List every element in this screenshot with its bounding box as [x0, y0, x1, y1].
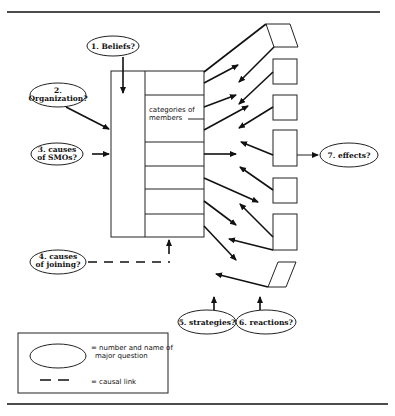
- smo-diagram: categories of members 1. Beliefs? 2. Org…: [0, 0, 395, 416]
- effect-box-1: [273, 59, 297, 84]
- organization-box: [111, 71, 204, 237]
- reaction-arrows: [216, 47, 274, 287]
- effect-box-4: [273, 178, 297, 203]
- question-3-label-2: of SMOs?: [37, 153, 77, 162]
- question-4-ellipse: 4. causes of joining?: [30, 250, 86, 274]
- question-6-ellipse: 6. reactions?: [236, 310, 296, 334]
- question-4-label-2: of joining?: [36, 260, 81, 269]
- legend-dash-label: = causal link: [91, 378, 137, 386]
- legend-ellipse-label-1: = number and name of: [91, 344, 173, 352]
- categories-label-2: members: [149, 114, 183, 122]
- bottom-parallelogram: [268, 262, 296, 287]
- question-7-ellipse: 7. effects?: [320, 143, 378, 167]
- question-5-ellipse: 5. strategies?: [178, 310, 236, 334]
- arrow-organization: [66, 107, 109, 129]
- question-2-ellipse: 2. Organization?: [28, 83, 88, 107]
- strategy-arrows: [204, 24, 266, 260]
- legend-ellipse-label-2: major question: [95, 352, 148, 360]
- question-1-ellipse: 1. Beliefs?: [87, 36, 139, 56]
- effect-box-5: [273, 214, 297, 250]
- question-2-label-2: Organization?: [28, 94, 88, 103]
- question-7-label: 7. effects?: [328, 151, 371, 160]
- legend-ellipse: [30, 344, 86, 368]
- top-parallelogram: [266, 24, 298, 47]
- effect-box-2: [273, 95, 297, 120]
- question-5-label: 5. strategies?: [179, 318, 236, 327]
- categories-label-1: categories of: [149, 106, 195, 114]
- effect-box-3: [273, 130, 297, 166]
- question-3-ellipse: 3. causes of SMOs?: [31, 143, 83, 165]
- question-1-label: 1. Beliefs?: [91, 42, 135, 51]
- legend: = number and name of major question = ca…: [18, 333, 173, 393]
- question-6-label: 6. reactions?: [239, 318, 294, 327]
